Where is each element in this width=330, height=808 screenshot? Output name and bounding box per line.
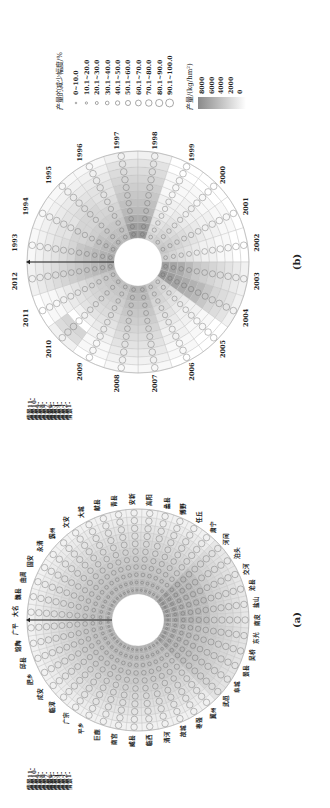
year-label: 2009: [76, 362, 84, 381]
size-legend-circle-icon: [136, 100, 142, 106]
year-label: 1994: [22, 197, 30, 216]
year-label: 2001: [242, 197, 250, 215]
year-label: 1993: [11, 233, 19, 252]
size-legend-label: 80.1~90.0: [156, 59, 163, 95]
heatmap-cell: [187, 616, 195, 624]
county-label: 临漳: [48, 701, 56, 713]
heatmap-cell: [133, 654, 139, 662]
panel-a-chart: 大名魏县曲周固安永清霸州文安大城献县青县安新高阳蠡县博野任丘肃宁河间泊头交河沧县…: [11, 493, 261, 747]
heatmap-cell: [140, 555, 150, 564]
size-legend-label: 30.1~40.0: [104, 59, 111, 95]
scenario-labels-a: 情景11-情景10-情景9-情景8-情景7-情景6-情景5-情景4-情景3-情景…: [26, 767, 73, 791]
county-label: 临西: [145, 734, 153, 746]
county-label: 广宗: [62, 712, 70, 724]
heatmap-cell: [134, 586, 139, 594]
county-label: 魏县: [14, 588, 22, 601]
heatmap-cell: [226, 613, 234, 627]
year-label: 1998: [151, 131, 159, 150]
size-legend-circle-icon: [75, 102, 77, 104]
size-legend-label: 10.1~20.0: [83, 59, 90, 95]
panel-b-label: (b): [291, 254, 302, 270]
county-label: 大城: [77, 506, 85, 518]
year-label: 2007: [151, 374, 159, 392]
county-label: 河间: [222, 533, 230, 545]
county-label: 南宫: [110, 733, 118, 745]
county-label: 冀州: [209, 707, 217, 719]
year-label: 2010: [45, 339, 53, 358]
county-label: 阜城: [233, 681, 241, 693]
panel-b-chart: 1993199419951996199719981999200020012002…: [11, 131, 262, 393]
year-label: 2012: [11, 272, 19, 290]
heatmap-cell: [81, 612, 89, 620]
year-label: 2011: [22, 309, 30, 327]
heatmap-cell: [172, 617, 180, 623]
county-label: 安新: [128, 493, 136, 505]
size-legend-label: 40.1~50.0: [114, 59, 121, 95]
county-label: 文安: [62, 516, 70, 528]
year-label: 2004: [242, 308, 250, 327]
county-label: 博野: [179, 503, 187, 515]
heatmap-cell: [140, 668, 149, 677]
size-legend-label: 90.1~100.0: [166, 55, 173, 95]
heatmap-cell: [133, 571, 140, 579]
yield-legend-title: 产量/(kg/hm²): [185, 63, 194, 110]
yield-tick-label: 4000: [217, 76, 224, 94]
county-label: 南皮: [253, 614, 261, 626]
yield-tick-label: 0: [236, 89, 243, 94]
county-label: 献县: [93, 499, 101, 511]
yield-tick-label: 8000: [198, 76, 205, 94]
heatmap-cell: [179, 616, 187, 623]
heatmap-cell: [241, 612, 249, 628]
county-label: 东光: [252, 632, 260, 644]
yield-tick-label: 6000: [208, 76, 215, 94]
size-legend-circle-icon: [105, 101, 109, 105]
heatmap-cell: [233, 612, 241, 627]
size-legend-label: 20.1~30.0: [93, 59, 100, 95]
county-label: 清河: [163, 731, 171, 743]
county-label: 蠡县: [163, 497, 171, 509]
county-label: 青县: [110, 495, 118, 507]
yield-color-bar: [198, 97, 246, 109]
heatmap-cell: [218, 614, 226, 627]
size-legend-circle-icon: [125, 100, 130, 105]
county-label: 馆陶: [14, 640, 22, 652]
panel-a-label: (a): [291, 612, 302, 628]
county-label: 成安: [36, 688, 44, 700]
county-label: 吴桥: [248, 649, 256, 661]
size-legend-label: 70.1~80.0: [145, 59, 152, 95]
year-label: 2005: [219, 339, 227, 358]
size-legend-circle-icon: [95, 102, 98, 105]
county-label: 永清: [36, 540, 44, 552]
county-label: 平乡: [77, 722, 85, 734]
heatmap-cell: [133, 579, 139, 587]
size-legend-label: 60.1~70.0: [135, 59, 142, 95]
year-label: 2006: [188, 362, 196, 381]
year-label: 2008: [113, 374, 121, 393]
year-label: 2003: [253, 272, 261, 291]
size-legend-circle-icon: [115, 101, 119, 105]
figure: 产量的减少幅度/%0~10.010.1~20.020.1~30.030.1~40…: [0, 0, 330, 808]
legend: 产量的减少幅度/%0~10.010.1~20.020.1~30.030.1~40…: [55, 52, 246, 110]
county-label: 故城: [179, 725, 187, 737]
county-label: 肃宁: [209, 521, 217, 533]
county-label: 景县: [242, 665, 250, 678]
year-label: 1997: [113, 131, 121, 149]
circle-size-legend-title: 产量的减少幅度/%: [55, 52, 64, 110]
scenario-label: 情景1-: [65, 401, 73, 421]
heatmap-cell: [132, 563, 140, 571]
county-label: 广平: [11, 623, 19, 635]
county-label: 曲周: [19, 571, 27, 583]
county-label: 交河: [242, 563, 250, 575]
scenario-label: 情景1-: [65, 771, 73, 791]
size-legend-label: 0~10.0: [72, 70, 79, 95]
size-legend-circle-icon: [156, 99, 163, 106]
county-label: 泊头: [233, 547, 241, 559]
heatmap-cell: [97, 620, 105, 626]
scenario-labels-b: 情景11-情景10-情景9-情景8-情景7-情景6-情景5-情景4-情景3-情景…: [26, 397, 73, 421]
year-label: 2002: [253, 234, 261, 252]
year-label: 1995: [45, 166, 53, 185]
county-label: 沧县: [248, 579, 256, 591]
county-label: 枣强: [195, 717, 203, 730]
heatmap-cell: [140, 661, 147, 669]
county-label: 霸州: [48, 527, 56, 539]
